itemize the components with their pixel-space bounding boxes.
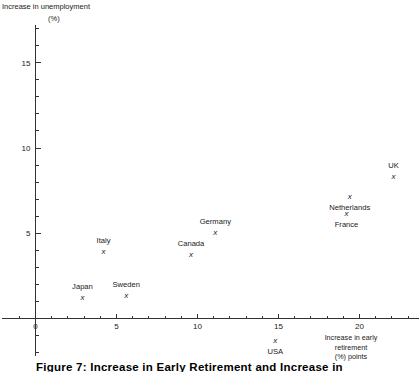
data-point-marker: x (102, 248, 106, 256)
data-point-marker: x (273, 337, 277, 345)
x-axis-tick-label: 15 (274, 322, 283, 331)
data-point-marker: x (213, 229, 217, 237)
data-point-marker: x (124, 292, 128, 300)
data-point-label: Italy (97, 237, 111, 245)
data-point-marker: x (348, 193, 352, 201)
data-point-marker: x (189, 251, 193, 259)
figure-scatter-plot: Increase in unemployment (%) 51015051015… (0, 0, 419, 372)
data-point-label: Canada (178, 241, 205, 249)
plot-area: 5101505101520xJapanxSwedenxItalyxCanadax… (0, 0, 419, 372)
x-axis-tick-label: 10 (193, 322, 202, 331)
y-axis-tick-label: 10 (22, 144, 31, 153)
y-axis-tick-label: 5 (26, 229, 30, 238)
data-point-label: Japan (72, 283, 93, 291)
data-point-label: USA (267, 348, 283, 356)
y-axis-tick-label: 15 (22, 58, 31, 67)
data-point-label: Netherlands (329, 205, 370, 213)
figure-caption: Figure 7: Increase in Early Retirement a… (36, 361, 343, 372)
data-point-label: France (335, 222, 359, 230)
data-point-marker: x (392, 173, 396, 181)
data-point-label: Sweden (112, 282, 139, 290)
x-axis-label: Increase in early retirement (%) points (303, 333, 399, 362)
x-axis-tick-label: 20 (355, 322, 364, 331)
data-point-label: Germany (200, 218, 231, 226)
x-axis-tick-label: 0 (33, 322, 37, 331)
x-axis-label-line2: retirement (303, 343, 399, 353)
axis-lines (0, 0, 419, 372)
x-axis-tick-label: 5 (114, 322, 118, 331)
x-axis-label-line1: Increase in early (303, 333, 399, 343)
data-point-label: UK (388, 162, 399, 170)
data-point-marker: x (80, 294, 84, 302)
